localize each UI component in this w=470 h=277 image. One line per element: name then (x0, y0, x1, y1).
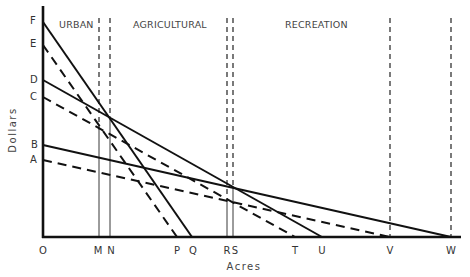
land-use-rent-diagram: URBAN AGRICULTURAL RECREATION F E D C B … (0, 0, 470, 277)
x-label-q: Q (189, 245, 197, 256)
x-label-t: T (291, 245, 299, 256)
y-label-b: B (31, 139, 38, 150)
zone-boundaries (99, 18, 451, 237)
zone-label-urban: URBAN (59, 19, 94, 30)
y-label-f: F (30, 15, 36, 26)
zone-labels: URBAN AGRICULTURAL RECREATION (59, 19, 348, 30)
x-label-v: V (387, 245, 394, 256)
y-axis-title: Dollars (7, 107, 18, 152)
y-label-a: A (30, 154, 37, 165)
x-label-w: W (446, 245, 456, 256)
y-point-labels: F E D C B A (30, 15, 38, 165)
y-label-c: C (30, 91, 37, 102)
x-label-o: O (39, 245, 47, 256)
curve-c-t (43, 97, 295, 237)
zone-label-recreation: RECREATION (285, 19, 348, 30)
x-label-u: U (318, 245, 325, 256)
curve-f-q (43, 22, 192, 237)
x-point-labels: O M N P Q R S T U V W (39, 245, 456, 256)
zone-label-agricultural: AGRICULTURAL (133, 19, 207, 30)
x-label-n: N (107, 245, 114, 256)
x-label-s: S (232, 245, 238, 256)
x-label-p: P (174, 245, 180, 256)
x-label-m: M (94, 245, 103, 256)
x-axis-title: Acres (227, 261, 262, 272)
curve-a-v (43, 160, 390, 237)
y-label-e: E (30, 38, 36, 49)
x-label-r: R (224, 245, 231, 256)
y-label-d: D (30, 74, 38, 85)
axes (42, 6, 461, 238)
